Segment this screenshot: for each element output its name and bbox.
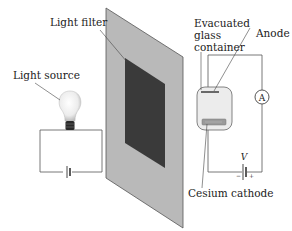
photoelectric-diagram: A V − + Light filter Light source Evacua… — [0, 0, 292, 231]
evacuated-label-line2: glass — [194, 29, 221, 41]
anode-label: Anode — [255, 27, 290, 39]
svg-text:−: − — [236, 172, 241, 179]
svg-text:+: + — [249, 172, 254, 179]
svg-text:A: A — [258, 93, 266, 103]
evacuated-glass-container — [197, 87, 232, 130]
cesium-cathode-label: Cesium cathode — [188, 187, 273, 199]
evacuated-label-line3: container — [194, 41, 246, 53]
ammeter-icon: A — [255, 90, 269, 104]
svg-text:V: V — [241, 152, 249, 162]
light-source-circuit — [40, 130, 102, 178]
light-source-leader — [35, 83, 60, 100]
evacuated-label-line1: Evacuated — [194, 17, 250, 29]
cathode-leader — [202, 124, 207, 188]
light-bulb-icon — [59, 91, 81, 130]
light-source-label: Light source — [13, 69, 80, 81]
light-filter-label: Light filter — [50, 16, 108, 28]
battery-icon — [67, 166, 70, 178]
voltage-battery-icon: V − + — [236, 152, 254, 180]
